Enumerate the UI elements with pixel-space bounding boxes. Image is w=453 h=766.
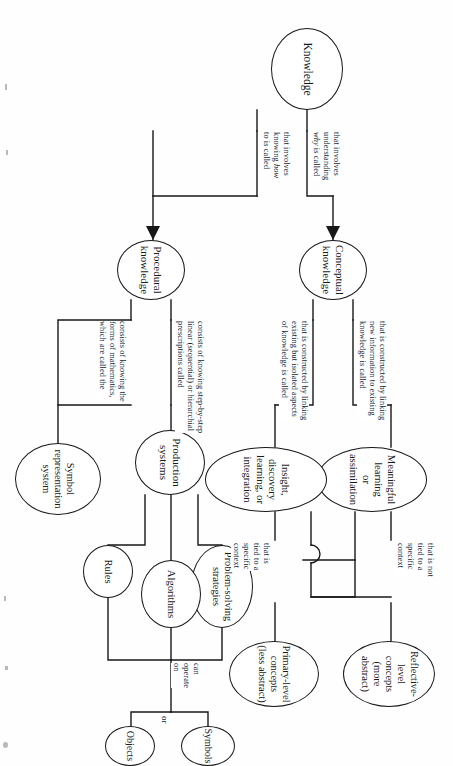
node-insight-discovery-line1: Insight, discovery [266,451,291,508]
node-insight-discovery[interactable]: Insight, discovery learning, or integrat… [205,447,327,512]
label-line1: consists of knowing step-by-step [195,321,205,433]
label-line3: knowledge is called [357,321,367,420]
label-line1: that involves [331,132,341,180]
scan-speckle [6,150,8,155]
label-line2: understanding [321,132,331,180]
node-reflective-level-concepts-line2: concepts [383,645,395,703]
node-algorithms[interactable]: Algorithms [141,560,201,628]
node-primary-level-concepts[interactable]: Primary-level concepts (less abstract) [229,641,319,707]
node-primary-level-concepts-line1: Primary-level [280,645,292,702]
label-line3: why is called [311,132,321,180]
label-line2: tied to a [415,543,425,577]
node-rules-label: Rules [102,559,115,583]
label-involves-knowing-how: that involves knowing how to is called [261,132,291,178]
node-meaningful-learning-line1: Meaningful learning [372,451,397,508]
scan-speckle [5,84,7,90]
node-conceptual-knowledge-line1: Conceptual [333,245,346,295]
label-can-operate-on: can operate on [171,663,201,688]
concept-map-canvas: Knowledge Conceptual knowledge Procedura… [0,0,453,766]
label-line3: specific [405,543,415,577]
label-line2: forms of mathematics, [107,321,117,402]
node-insight-discovery-line2: learning, or integration [241,451,266,508]
scan-speckle [3,742,8,748]
node-primary-level-concepts-line2: concepts [268,645,280,702]
label-or-text: or [159,716,170,724]
label-tied-to-context: that is tied to a specific context [231,543,271,571]
label-line3: specific [241,543,251,571]
label-line2: knowing how [271,132,281,178]
label-line3-rest: is called [312,146,321,177]
label-line1: that is [261,543,271,571]
node-primary-level-concepts-line3: (less abstract) [256,645,268,702]
label-involves-understanding-why: that involves understanding why is calle… [311,132,341,180]
label-line1: that involves [281,132,291,178]
label-line3: which are called the [97,321,107,402]
node-symbols-label: Symbols [202,729,214,764]
label-line1: that is constructed by linking [377,321,387,420]
label-line4: context [231,543,241,571]
label-line1: that is constructed by linking [299,321,309,420]
label-line1: can [191,663,201,688]
label-line3: prescriptions called [175,321,185,433]
label-constructed-new-information: that is constructed by linking new infor… [357,321,387,420]
node-reflective-level-concepts-line3: (more abstract) [358,645,383,703]
node-objects-label: Objects [124,731,136,762]
node-conceptual-knowledge[interactable]: Conceptual knowledge [299,240,367,300]
node-objects[interactable]: Objects [105,726,155,766]
label-line2: new information to existing [367,321,377,420]
node-production-systems-line1: Production [170,438,183,486]
node-symbol-representation-system-line2: representation [52,450,64,509]
arrowheads [146,226,340,240]
label-line2: linear (sequential) or hierarchial [185,321,195,433]
label-line3: to is called [261,132,271,178]
scanned-page: Knowledge Conceptual knowledge Procedura… [0,0,453,766]
node-meaningful-learning[interactable]: Meaningful learning or assimilation [317,447,427,512]
node-procedural-knowledge-line2: knowledge [138,246,151,294]
scan-speckle [4,596,6,601]
node-production-systems[interactable]: Production systems [135,430,205,495]
label-line3: of knowledge is called [279,321,289,420]
node-knowledge-label: Knowledge [300,42,314,95]
scan-speckle [5,666,8,670]
label-line3: on [171,663,181,688]
node-algorithms-label: Algorithms [165,570,178,618]
node-procedural-knowledge[interactable]: Procedural knowledge [117,240,185,300]
label-forms-of-mathematics: consists of knowing the forms of mathema… [97,321,127,402]
label-line4: context [395,543,405,577]
label-line2: tied to a [251,543,261,571]
node-rules[interactable]: Rules [83,545,133,598]
label-not-tied-to-context: that is not tied to a specific context [395,543,435,577]
node-knowledge[interactable]: Knowledge [271,28,343,110]
node-meaningful-learning-line2: or assimilation [347,451,372,508]
node-procedural-knowledge-line1: Procedural [151,246,164,294]
label-step-by-step-prescriptions: consists of knowing step-by-step linear … [175,321,205,433]
label-line2: existing but isolated aspects [289,321,299,420]
label-line1: consists of knowing the [117,321,127,402]
node-symbol-representation-system-line1: Symbol [64,450,76,509]
node-reflective-level-concepts[interactable]: Reflective-level concepts (more abstract… [343,641,435,707]
label-emphasis: how [272,164,281,178]
node-problem-solving-strategies-line2: strategies [210,552,222,621]
node-reflective-level-concepts-line1: Reflective-level [395,645,420,703]
label-line1: that is not [425,543,435,577]
node-conceptual-knowledge-line2: knowledge [320,245,333,295]
node-production-systems-line2: systems [157,438,170,486]
label-line2-rest: knowing [272,132,281,164]
label-constructed-isolated-aspects: that is constructed by linking existing … [279,321,309,420]
node-symbol-representation-system-line3: system [40,450,52,509]
node-symbol-representation-system[interactable]: Symbol representation system [15,443,101,515]
label-or: or [159,716,170,724]
label-line2: operate [181,663,191,688]
label-emphasis: why [312,132,321,146]
node-symbols[interactable]: Symbols [181,726,235,766]
